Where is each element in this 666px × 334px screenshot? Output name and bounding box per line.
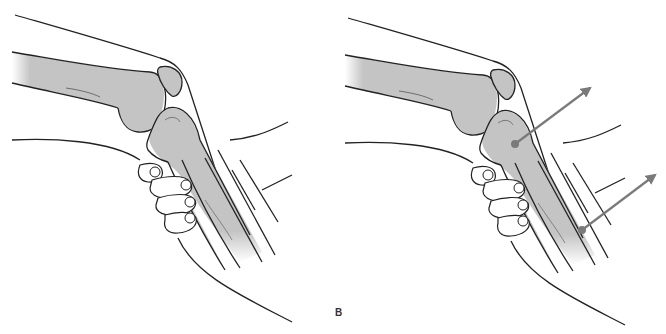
panel-a: [12, 15, 292, 322]
force-arrow-lower: [578, 175, 655, 234]
panel-label-b: B: [335, 307, 342, 318]
force-arrow-upper: [511, 88, 590, 148]
knee-diagram: [0, 0, 666, 334]
figure-canvas: B: [0, 0, 666, 334]
panel-b: [345, 18, 655, 325]
